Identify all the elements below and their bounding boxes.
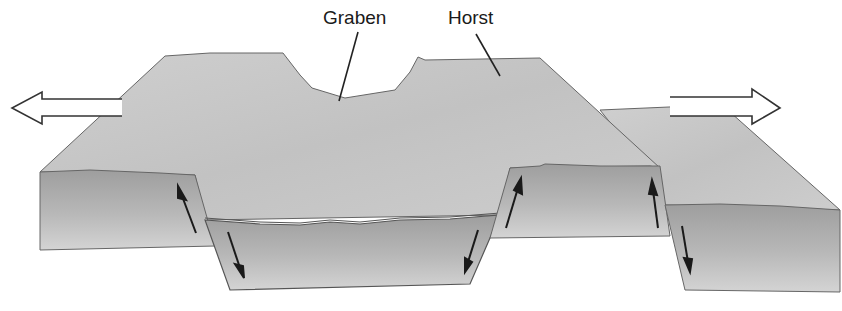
graben-leader [339,32,358,101]
left-horst-front [40,170,215,250]
fault-diagram [0,0,842,311]
horst-label: Horst [448,7,493,29]
right-plateau-front [665,204,840,292]
graben-block-front [205,215,500,290]
graben-label: Graben [323,7,386,29]
right-horst-front [490,164,670,238]
